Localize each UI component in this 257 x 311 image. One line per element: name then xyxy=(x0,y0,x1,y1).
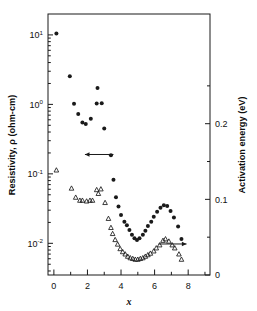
data-point-resistivity xyxy=(162,203,166,207)
left-axis-title: Resistivity, ρ (ohm-cm) xyxy=(7,95,17,195)
data-point-activation-energy xyxy=(110,231,115,235)
data-point-activation-energy xyxy=(177,252,182,256)
series-activation-energy-markers xyxy=(54,168,184,262)
data-point-resistivity xyxy=(141,233,145,237)
data-point-activation-energy xyxy=(80,198,85,202)
data-point-activation-energy xyxy=(103,200,108,204)
data-point-resistivity xyxy=(176,224,180,228)
data-point-resistivity xyxy=(179,237,183,241)
data-point-activation-energy xyxy=(179,257,184,261)
scatter-plot: 10110010-110-2 00.10.2 02468 Resistivity… xyxy=(0,0,257,311)
svg-text:4: 4 xyxy=(119,281,124,291)
svg-text:10-1: 10-1 xyxy=(27,168,43,180)
data-point-resistivity xyxy=(102,126,106,130)
left-axis-ticks xyxy=(48,35,53,271)
right-axis-ticks xyxy=(205,86,210,275)
data-point-activation-energy xyxy=(118,246,123,250)
data-point-activation-energy xyxy=(73,195,78,199)
data-point-resistivity xyxy=(68,74,72,78)
data-point-resistivity xyxy=(149,220,153,224)
svg-text:6: 6 xyxy=(152,281,157,291)
left-axis-tick-labels: 10110010-110-2 xyxy=(27,29,43,249)
data-point-activation-energy xyxy=(106,216,111,220)
data-point-activation-energy xyxy=(113,237,118,241)
data-point-resistivity xyxy=(158,206,162,210)
svg-text:8: 8 xyxy=(186,281,191,291)
bottom-axis-tick-labels: 02468 xyxy=(51,281,190,291)
data-point-resistivity xyxy=(143,229,147,233)
svg-text:0: 0 xyxy=(51,281,56,291)
data-point-activation-energy xyxy=(163,237,168,241)
left-pointing-arrow-head xyxy=(85,152,90,157)
data-point-resistivity xyxy=(111,178,115,182)
data-point-resistivity xyxy=(54,31,58,35)
data-point-resistivity xyxy=(119,213,123,217)
data-point-resistivity xyxy=(130,233,134,237)
svg-text:2: 2 xyxy=(85,281,90,291)
data-point-resistivity xyxy=(89,117,93,121)
data-point-resistivity xyxy=(122,220,126,224)
data-point-resistivity xyxy=(146,224,150,228)
svg-text:0.1: 0.1 xyxy=(215,195,228,205)
data-point-resistivity xyxy=(96,86,100,90)
data-point-activation-energy xyxy=(69,186,74,190)
data-point-resistivity xyxy=(117,204,121,208)
data-point-resistivity xyxy=(165,204,169,208)
data-point-resistivity xyxy=(114,195,118,199)
plot-frame xyxy=(48,14,210,275)
data-point-activation-energy xyxy=(157,243,162,247)
svg-text:0.2: 0.2 xyxy=(215,119,228,129)
data-point-resistivity xyxy=(127,228,131,232)
data-point-activation-energy xyxy=(109,225,114,229)
x-axis-title: x xyxy=(126,296,132,307)
right-axis-title: Activation energy (eV) xyxy=(237,96,247,193)
data-point-resistivity xyxy=(72,102,76,106)
svg-text:0: 0 xyxy=(215,270,220,280)
svg-text:10-2: 10-2 xyxy=(27,237,43,249)
bottom-axis-ticks xyxy=(54,270,205,276)
right-pointing-arrow-head xyxy=(182,242,187,247)
svg-text:101: 101 xyxy=(30,29,44,41)
svg-text:100: 100 xyxy=(30,98,44,110)
data-point-resistivity xyxy=(95,101,99,105)
data-point-activation-energy xyxy=(99,187,104,191)
data-point-resistivity xyxy=(125,223,129,227)
data-point-resistivity xyxy=(109,153,113,157)
data-point-resistivity xyxy=(169,209,173,213)
data-point-resistivity xyxy=(137,236,141,240)
data-point-resistivity xyxy=(84,122,88,126)
figure-container: 10110010-110-2 00.10.2 02468 Resistivity… xyxy=(0,0,257,311)
data-point-activation-energy xyxy=(151,249,156,253)
data-point-resistivity xyxy=(155,210,159,214)
data-point-activation-energy xyxy=(54,168,59,172)
data-point-resistivity xyxy=(152,215,156,219)
data-point-resistivity xyxy=(76,112,80,116)
data-point-activation-energy xyxy=(90,198,95,202)
data-point-activation-energy xyxy=(115,242,120,246)
data-point-activation-energy xyxy=(172,246,177,250)
right-axis-tick-labels: 00.10.2 xyxy=(215,119,228,280)
data-point-resistivity xyxy=(172,216,176,220)
series-resistivity-markers xyxy=(54,31,183,241)
axis-pointer-annotations xyxy=(85,152,187,246)
data-point-resistivity xyxy=(100,101,104,105)
